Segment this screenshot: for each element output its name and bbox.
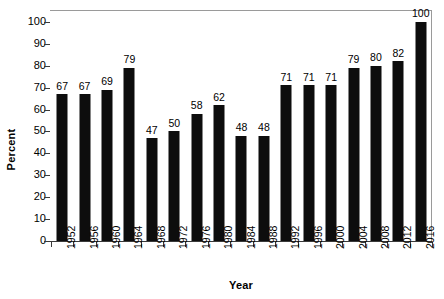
y-axis-tick-label: 10 — [34, 212, 46, 224]
bar-group[interactable]: 67 — [51, 11, 73, 241]
bar-group[interactable]: 62 — [208, 11, 230, 241]
bar-group[interactable]: 71 — [298, 11, 320, 241]
bar-value-label: 100 — [412, 8, 430, 19]
bar[interactable] — [303, 85, 314, 241]
x-axis-tick-label-text: 1964 — [133, 226, 144, 249]
y-axis-tick-label: 90 — [34, 37, 46, 49]
y-axis-tick-label: 60 — [34, 103, 46, 115]
bar-group[interactable]: 47 — [141, 11, 163, 241]
x-axis-tick-label-text: 1968 — [156, 226, 167, 249]
y-axis-tick-label: 20 — [34, 190, 46, 202]
x-axis-tick-label-text: 1988 — [268, 226, 279, 249]
bar[interactable] — [281, 85, 292, 241]
bar-group[interactable]: 79 — [118, 11, 140, 241]
bar-group[interactable]: 100 — [410, 11, 432, 241]
x-axis-tick-label-text: 2004 — [358, 226, 369, 249]
bar[interactable] — [326, 85, 337, 241]
bar-group[interactable]: 71 — [320, 11, 342, 241]
bar[interactable] — [57, 94, 68, 241]
bar[interactable] — [393, 61, 404, 241]
bar-value-label: 71 — [280, 72, 292, 83]
y-axis-tick-label: 0 — [40, 234, 46, 246]
bar[interactable] — [191, 114, 202, 241]
y-axis-tick-label: 80 — [34, 59, 46, 71]
bar-group[interactable]: 50 — [163, 11, 185, 241]
bar[interactable] — [415, 22, 426, 241]
y-axis-title: Percent — [0, 0, 22, 299]
x-axis-tick-label-text: 1992 — [290, 226, 301, 249]
x-axis-tick-label-text: 1996 — [313, 226, 324, 249]
bar[interactable] — [348, 68, 359, 241]
bar-value-label: 58 — [191, 100, 203, 111]
bar-value-label: 71 — [325, 72, 337, 83]
y-axis-tick-label: 40 — [34, 146, 46, 158]
x-axis-tick-label-text: 1980 — [223, 226, 234, 249]
x-axis-tick-label-text: 2012 — [402, 226, 413, 249]
bar[interactable] — [124, 68, 135, 241]
bar-value-label: 50 — [168, 118, 180, 129]
bar-value-label: 69 — [101, 76, 113, 87]
x-axis-tick-label-text: 1972 — [178, 226, 189, 249]
bar-value-label: 48 — [258, 122, 270, 133]
y-axis-tick-label: 100 — [28, 15, 46, 27]
bar-value-label: 80 — [370, 52, 382, 63]
bar[interactable] — [214, 105, 225, 241]
x-axis-title: Year — [50, 279, 432, 291]
x-axis-tick-label-text: 1984 — [246, 226, 257, 249]
bar-value-label: 62 — [213, 92, 225, 103]
bar-group[interactable]: 82 — [387, 11, 409, 241]
bar[interactable] — [169, 131, 180, 241]
bar[interactable] — [102, 90, 113, 241]
bar-group[interactable]: 48 — [253, 11, 275, 241]
x-axis-tick-label-text: 1976 — [201, 226, 212, 249]
plot-area: 67676979475058624848717171798082100 — [51, 11, 432, 241]
bar-value-label: 67 — [79, 81, 91, 92]
y-axis-title-container: Percent — [0, 0, 22, 299]
bar-chart-figure: Percent 0102030405060708090100 676769794… — [0, 0, 444, 299]
x-axis-tick-mark — [51, 242, 52, 247]
x-axis-tick-label-text: 2000 — [335, 226, 346, 249]
x-axis-tick-label-text: 2008 — [380, 226, 391, 249]
x-axis-line — [50, 241, 432, 242]
bar-group[interactable]: 79 — [342, 11, 364, 241]
bar-value-label: 79 — [124, 54, 136, 65]
bar-value-label: 82 — [393, 48, 405, 59]
bar-value-label: 71 — [303, 72, 315, 83]
bar-value-label: 47 — [146, 125, 158, 136]
bar[interactable] — [79, 94, 90, 241]
y-axis-tick-label: 30 — [34, 168, 46, 180]
bar-group[interactable]: 58 — [185, 11, 207, 241]
y-axis-tick-label: 70 — [34, 81, 46, 93]
x-axis-tick-label-text: 1956 — [89, 226, 100, 249]
x-axis-tick-label-text: 2016 — [425, 226, 436, 249]
bar-value-label: 67 — [56, 81, 68, 92]
bar-group[interactable]: 80 — [365, 11, 387, 241]
x-axis-tick-label-text: 1960 — [111, 226, 122, 249]
bar-group[interactable]: 67 — [73, 11, 95, 241]
bar-group[interactable]: 71 — [275, 11, 297, 241]
bar-value-label: 79 — [348, 54, 360, 65]
bar-group[interactable]: 69 — [96, 11, 118, 241]
bar-group[interactable]: 48 — [230, 11, 252, 241]
bar[interactable] — [370, 66, 381, 241]
bar-value-label: 48 — [236, 122, 248, 133]
x-axis-tick-label-text: 1952 — [66, 226, 77, 249]
y-axis-tick-label: 50 — [34, 124, 46, 136]
